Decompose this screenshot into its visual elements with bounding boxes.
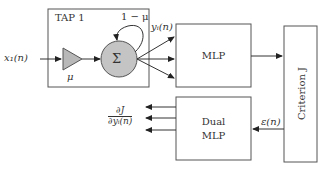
dual-mlp-line2: MLP [202, 129, 226, 143]
dual-mlp-line1: Dual [202, 115, 226, 129]
input-label: x₁(n) [4, 53, 28, 63]
gradient-denominator: ∂yᵢ(n) [108, 117, 132, 127]
gain-label: μ [67, 72, 74, 82]
gradient-label: ∂J ∂yᵢ(n) [108, 106, 132, 127]
criterion-label: Criterion J [296, 54, 307, 134]
feedback-label: 1 − μ [121, 12, 149, 22]
mlp-text: MLP [202, 49, 226, 63]
error-label: ε(n) [261, 117, 281, 127]
sigma-symbol: Σ [112, 52, 121, 65]
dual-mlp-label: Dual MLP [176, 97, 251, 160]
tap-label: TAP 1 [55, 13, 85, 23]
output-arrow-bot [137, 59, 174, 78]
tap-output-label: yᵢ(n) [151, 22, 173, 32]
mlp-label: MLP [176, 24, 251, 87]
gain-triangle-icon [63, 48, 82, 70]
